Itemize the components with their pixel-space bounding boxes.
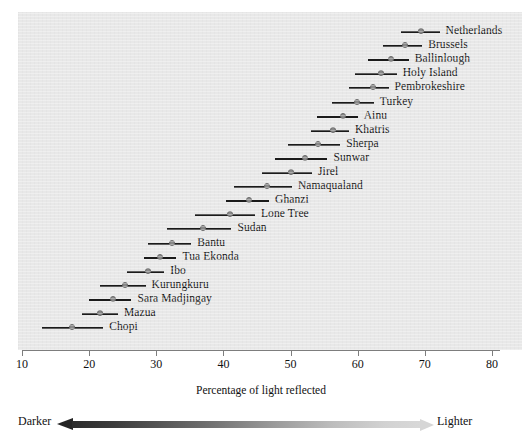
data-row-label: Turkey (380, 95, 413, 107)
arrow-right-icon (420, 419, 434, 431)
data-row-label: Tua Ekonda (182, 250, 238, 262)
data-row-label: Netherlands (446, 24, 503, 36)
data-point-marker (418, 28, 424, 34)
x-axis-tick (156, 350, 157, 356)
x-axis-tick-label: 80 (486, 357, 498, 372)
x-axis-tick (492, 350, 493, 356)
data-row: Jirel (18, 166, 522, 181)
data-row-label: Sunwar (333, 151, 369, 163)
range-bar (355, 73, 397, 75)
data-point-marker (378, 70, 384, 76)
data-row-label: Kurungkuru (152, 278, 209, 290)
plot-panel: NetherlandsBrusselsBallinloughHoly Islan… (18, 12, 522, 350)
data-row: Chopi (18, 321, 522, 336)
legend-label-lighter: Lighter (437, 414, 472, 429)
data-row: Kurungkuru (18, 279, 522, 294)
x-axis-tick (291, 350, 292, 356)
x-axis-tick-label: 30 (150, 357, 162, 372)
range-bar (195, 214, 255, 216)
data-row: Sherpa (18, 138, 522, 153)
data-row-label: Chopi (109, 320, 138, 332)
data-row-label: Khatris (355, 123, 390, 135)
data-row-label: Mazua (124, 306, 156, 318)
data-point-marker (110, 296, 116, 302)
data-row-label: Holy Island (403, 66, 458, 78)
data-point-marker (122, 282, 128, 288)
x-axis-tick-label: 10 (16, 357, 28, 372)
data-row: Khatris (18, 124, 522, 139)
data-row: Pembrokeshire (18, 81, 522, 96)
data-point-marker (402, 42, 408, 48)
data-point-marker (200, 225, 206, 231)
data-row-label: Ballinlough (415, 52, 470, 64)
data-point-marker (169, 240, 175, 246)
range-bar (234, 186, 292, 188)
data-point-marker (388, 56, 394, 62)
data-row: Ibo (18, 265, 522, 280)
range-bar (332, 102, 374, 104)
x-axis-tick-label: 40 (217, 357, 229, 372)
range-bar (317, 116, 357, 118)
figure-container: NetherlandsBrusselsBallinloughHoly Islan… (0, 0, 522, 442)
x-axis-tick-label: 70 (419, 357, 431, 372)
x-axis-tick (358, 350, 359, 356)
data-row: Lone Tree (18, 208, 522, 223)
data-point-marker (370, 84, 376, 90)
data-point-marker (315, 141, 321, 147)
data-point-marker (302, 155, 308, 161)
data-row: Sara Madjingay (18, 293, 522, 308)
data-row: Turkey (18, 96, 522, 111)
data-point-marker (340, 113, 346, 119)
data-row-label: Ghanzi (275, 193, 309, 205)
x-axis-tick (223, 350, 224, 356)
range-bar (288, 144, 340, 146)
data-row: Sudan (18, 222, 522, 237)
x-axis: 1020304050607080 (18, 350, 522, 380)
data-row: Bantu (18, 237, 522, 252)
data-point-marker (264, 183, 270, 189)
x-axis-tick-label: 20 (83, 357, 95, 372)
data-row: Ainu (18, 110, 522, 125)
data-point-marker (227, 211, 233, 217)
x-axis-title: Percentage of light reflected (0, 384, 522, 396)
x-axis-tick (22, 350, 23, 356)
data-row-label: Sherpa (346, 137, 379, 149)
data-row-label: Bantu (197, 236, 225, 248)
data-point-marker (157, 254, 163, 260)
x-axis-tick (89, 350, 90, 356)
data-row: Namaqualand (18, 180, 522, 195)
legend-label-darker: Darker (18, 414, 51, 429)
lightness-gradient-legend: Darker Lighter (0, 408, 522, 436)
data-row-label: Jirel (318, 165, 338, 177)
data-point-marker (97, 310, 103, 316)
gradient-bar (72, 421, 420, 428)
data-row-label: Brussels (428, 38, 468, 50)
x-axis-line (22, 350, 500, 351)
data-row-label: Pembrokeshire (395, 80, 465, 92)
data-row-label: Sudan (237, 221, 266, 233)
data-point-marker (246, 197, 252, 203)
range-bar (349, 87, 389, 89)
x-axis-tick (425, 350, 426, 356)
data-point-marker (354, 99, 360, 105)
data-row: Sunwar (18, 152, 522, 167)
data-row: Tua Ekonda (18, 251, 522, 266)
data-point-marker (69, 324, 75, 330)
data-row-label: Sara Madjingay (137, 292, 212, 304)
data-row-label: Ainu (364, 109, 387, 121)
data-row-label: Ibo (170, 264, 186, 276)
data-row-label: Namaqualand (298, 179, 363, 191)
arrow-left-icon (57, 418, 73, 430)
data-point-marker (288, 169, 294, 175)
x-axis-tick-label: 60 (352, 357, 364, 372)
x-axis-tick-label: 50 (285, 357, 297, 372)
data-point-marker (330, 127, 336, 133)
data-point-marker (145, 268, 151, 274)
data-row: Mazua (18, 307, 522, 322)
data-row-label: Lone Tree (261, 207, 309, 219)
